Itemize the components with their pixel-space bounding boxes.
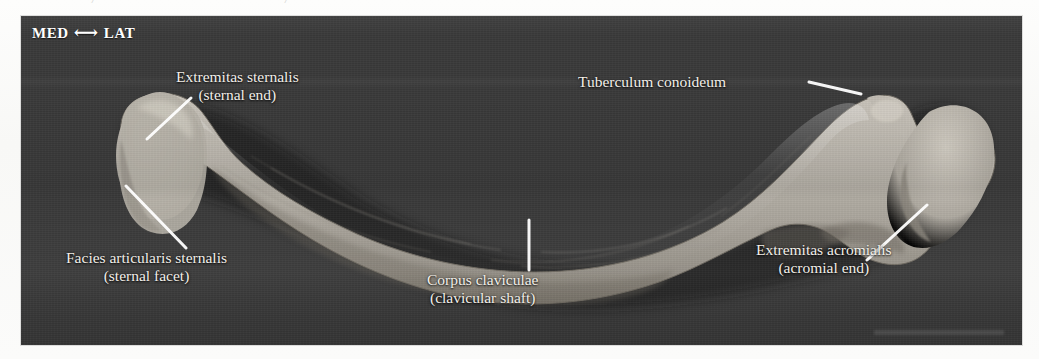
label-acromial-end-english: (acromial end) (756, 259, 892, 277)
label-acromial-end: Extremitas acromialis (acromial end) (756, 241, 892, 278)
label-acromial-end-latin: Extremitas acromialis (756, 241, 892, 259)
label-conoid-tubercle-latin: Tuberculum conoideum (578, 73, 726, 91)
label-clavicular-shaft: Corpus claviculae (clavicular shaft) (427, 271, 538, 308)
anatomical-photo-plate: MED ⟷ LAT Extremitas sternalis (sternal … (21, 16, 1022, 345)
label-sternal-end: Extremitas sternalis (sternal end) (176, 68, 299, 105)
label-sternal-end-english: (sternal end) (176, 86, 299, 104)
label-sternal-facet-latin: Facies articularis sternalis (66, 249, 227, 267)
plate-edge-smudge (874, 330, 1004, 335)
label-sternal-facet-english: (sternal facet) (66, 267, 227, 285)
label-shaft-english: (clavicular shaft) (427, 289, 538, 307)
label-sternal-end-latin: Extremitas sternalis (176, 68, 299, 86)
ghost-fragment-left: / (92, 0, 96, 7)
label-sternal-facet: Facies articularis sternalis (sternal fa… (66, 249, 227, 286)
orientation-medial-label: MED (32, 25, 69, 42)
cropped-text-fragment: / / (0, 0, 1039, 14)
label-conoid-tubercle: Tuberculum conoideum (578, 73, 726, 91)
orientation-key: MED ⟷ LAT (32, 25, 135, 42)
orientation-lateral-label: LAT (104, 25, 136, 42)
ghost-fragment-mid: / (285, 0, 289, 7)
figure-page: / / (0, 0, 1039, 359)
bidirectional-arrow-icon: ⟷ (74, 24, 99, 41)
label-shaft-latin: Corpus claviculae (427, 271, 538, 289)
